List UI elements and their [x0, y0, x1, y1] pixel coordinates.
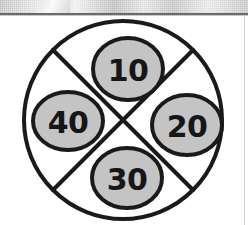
sector-bubble-bottom-label: 30: [107, 162, 148, 197]
sector-bubble-right-label: 20: [167, 109, 208, 144]
sector-bubble-top[interactable]: 10: [93, 38, 163, 100]
diagram-page: 10 20 30 40: [0, 0, 248, 225]
sector-bubble-top-label: 10: [108, 53, 149, 88]
sector-bubble-right[interactable]: 20: [152, 95, 222, 155]
sector-bubble-left[interactable]: 40: [33, 92, 103, 150]
sector-bubble-bottom[interactable]: 30: [92, 148, 162, 208]
four-sector-circle-diagram: 10 20 30 40: [0, 0, 248, 225]
sector-bubble-left-label: 40: [48, 105, 89, 140]
